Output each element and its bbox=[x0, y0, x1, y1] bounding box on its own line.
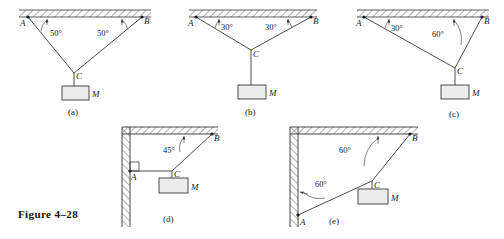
panel-c-block bbox=[441, 85, 469, 99]
panel-b-ceiling bbox=[189, 10, 317, 17]
panel-c-arc-b bbox=[454, 20, 461, 45]
panel-d-right-angle-marker bbox=[130, 162, 139, 171]
panel-e-point-b: B bbox=[412, 133, 418, 143]
panel-d-ceiling bbox=[122, 127, 218, 134]
panel-c-point-b: B bbox=[484, 16, 490, 26]
figure-svg: 50° 50° A B C M (a) 30° 3 bbox=[0, 0, 504, 239]
panel-a-arc-a bbox=[41, 20, 47, 31]
panel-c-angle-a: 30° bbox=[391, 23, 403, 33]
panel-c-rope-ac bbox=[364, 17, 455, 68]
panel-d: 45° A B C M (d) bbox=[122, 127, 220, 227]
panel-b-point-a: A bbox=[187, 18, 194, 28]
panel-d-angle-b: 45° bbox=[163, 145, 175, 155]
panel-e-point-a: A bbox=[299, 217, 306, 227]
panel-c-angle-b: 60° bbox=[432, 29, 444, 39]
panel-c-mass-label: M bbox=[471, 88, 480, 98]
panel-c-ceiling bbox=[357, 10, 489, 17]
figure-4-28: 50° 50° A B C M (a) 30° 3 bbox=[0, 0, 504, 239]
panel-a-mass-label: M bbox=[91, 89, 100, 99]
panel-a-rope-bc bbox=[74, 17, 142, 73]
panel-e-angle-b: 60° bbox=[339, 145, 351, 155]
panel-d-label: (d) bbox=[163, 214, 174, 224]
panel-b-label: (b) bbox=[245, 107, 256, 117]
panel-d-arc-b bbox=[180, 137, 184, 152]
panel-e-mass-label: M bbox=[390, 193, 399, 203]
panel-b-rope-bc bbox=[251, 17, 311, 50]
panel-c-arc-a bbox=[385, 20, 389, 28]
panel-b-block bbox=[238, 85, 266, 99]
panel-a-point-b: B bbox=[144, 16, 150, 26]
panel-d-wall bbox=[122, 127, 130, 227]
panel-a-angle-b: 50° bbox=[97, 28, 109, 38]
panel-d-point-b: B bbox=[214, 133, 220, 143]
panel-e-ceiling bbox=[290, 127, 418, 134]
panel-b-angle-a: 30° bbox=[221, 22, 233, 32]
panel-c-point-a: A bbox=[355, 18, 362, 28]
panel-e-arc-a bbox=[303, 192, 325, 199]
panel-b-arc-b bbox=[288, 20, 292, 28]
figure-caption: Figure 4–28 bbox=[18, 208, 78, 220]
panel-c: 30° 60° A B C M (c) bbox=[355, 10, 490, 119]
panel-c-point-c: C bbox=[457, 66, 464, 76]
panel-e-wall bbox=[290, 127, 298, 227]
panel-a-block bbox=[62, 86, 89, 100]
panel-b-angle-b: 30° bbox=[265, 22, 277, 32]
panel-e-arc-b bbox=[364, 138, 378, 166]
panel-d-mass-label: M bbox=[190, 182, 199, 192]
panel-a-arc-b bbox=[122, 20, 128, 30]
panel-b-point-c: C bbox=[253, 49, 260, 59]
panel-c-rope-bc bbox=[455, 17, 482, 68]
panel-e-block bbox=[358, 189, 388, 204]
panel-b-point-b: B bbox=[313, 16, 319, 26]
panel-a-point-c: C bbox=[76, 71, 83, 81]
panel-a-ceiling bbox=[19, 10, 151, 17]
panel-d-rope-bc bbox=[172, 134, 212, 171]
panel-d-point-c: C bbox=[174, 169, 181, 179]
panel-a-point-a: A bbox=[19, 18, 26, 28]
panel-d-block bbox=[159, 178, 188, 193]
panel-e: 60° 60° A B C M (e) bbox=[290, 127, 418, 227]
panel-e-label: (e) bbox=[329, 216, 339, 226]
panel-b-mass-label: M bbox=[268, 88, 277, 98]
panel-a-angle-a: 50° bbox=[50, 28, 62, 38]
panel-d-point-a: A bbox=[130, 172, 137, 182]
panel-e-point-c: C bbox=[374, 180, 381, 190]
panel-a: 50° 50° A B C M (a) bbox=[19, 10, 151, 117]
panel-c-label: (c) bbox=[449, 109, 459, 119]
panel-b-arc-a bbox=[215, 20, 219, 28]
panel-b: 30° 30° A B C M (b) bbox=[187, 10, 319, 117]
panel-e-angle-a: 60° bbox=[315, 179, 327, 189]
panel-a-label: (a) bbox=[68, 107, 78, 117]
panel-a-rope-ac bbox=[28, 17, 74, 73]
